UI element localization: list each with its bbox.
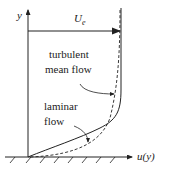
dashed-profile-curve (30, 10, 120, 157)
wall-hatching (10, 157, 115, 163)
solid-profile-curve (28, 8, 121, 157)
laminar-label-line2: flow (44, 115, 64, 128)
laminar-leader-arrow (74, 126, 88, 142)
laminar-label-line1: laminar (44, 100, 78, 113)
x-axis-label: u(y) (137, 150, 155, 163)
turbulent-label-line1: turbulent (49, 48, 89, 61)
y-axis-label: y (17, 9, 22, 22)
turbulent-leader-arrow (80, 84, 114, 94)
turbulent-label-line2: mean flow (45, 63, 92, 76)
freestream-symbol: U (74, 12, 82, 24)
freestream-label: Ue (74, 12, 86, 29)
boundary-layer-diagram: y Ue turbulent mean flow laminar flow u(… (0, 0, 170, 173)
freestream-subscript: e (82, 18, 86, 27)
